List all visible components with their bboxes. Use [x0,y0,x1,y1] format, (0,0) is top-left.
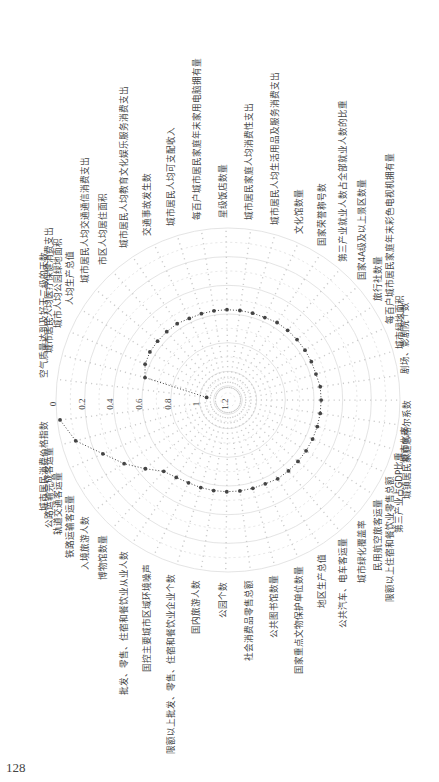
data-point [162,469,166,473]
radial-tick: 0.8 [163,398,173,410]
data-point [275,321,279,325]
data-point [156,339,160,343]
data-point [251,311,255,315]
radial-tick: 0.2 [77,398,87,409]
data-point [74,439,78,443]
data-point [174,476,178,480]
category-label: 国控主要城市区域环境噪声 [141,564,152,672]
data-point [187,317,191,321]
page-number: 128 [6,760,26,776]
category-label: 限额以上住宿和餐饮业零售总额 [384,476,395,602]
category-label: 人均生产总值 [64,251,75,305]
data-point [143,362,147,366]
data-point [238,489,242,493]
data-point [263,482,267,486]
category-label: 博物馆数量 [97,535,108,580]
radial-tick: 1 [191,402,201,407]
category-label: 城市居民人均教育文化娱乐服务消费支出 [118,86,129,248]
category-label: 国内旅游人数 [190,580,201,634]
data-point [199,312,203,316]
category-label: 文化馆数量 [293,189,304,234]
data-point [295,338,299,342]
category-label: 地区生产总值 [316,554,327,608]
data-point [212,309,216,313]
category-label: 城市居民人均可支配收入 [165,127,176,226]
category-label: 第三产业就业人数占全部就业人数的比重 [337,100,348,262]
category-label: 市区人均居住面积 [97,193,108,265]
category-label: 城市居民人均交通通信消费支出 [79,157,90,283]
category-label: 每百户城市居民家庭年末家用电脑拥有量 [191,58,202,220]
category-label: 公共汽车、电车客运量 [337,538,348,628]
data-point [287,469,291,473]
radial-tick: 0 [48,401,58,406]
data-point [143,376,147,380]
radial-tick: 1.2 [220,398,230,409]
category-label: 公园个数 [217,582,228,618]
category-label: 入境旅游人数 [79,516,90,570]
category-label: 国家重点文物保护单位数量 [293,566,304,674]
data-point [165,330,169,334]
category-label: 城市人均公园绿地面积 [52,238,63,328]
category-label: 城市居民人均生活用品及服务消费支出 [269,72,280,225]
data-point [319,398,323,402]
data-point [212,489,216,493]
data-point [101,452,105,456]
data-point [122,462,126,466]
category-label: 城市绿化覆盖率 [356,520,367,583]
radial-tick: 0.6 [134,398,144,410]
category-label: 城市居民家庭人均消费性支出 [243,103,254,220]
radial-tick: 0.4 [105,398,115,410]
data-point [286,328,290,332]
data-point [314,372,318,376]
data-point [225,490,229,494]
radar-chart: 00.20.40.60.811.2 空气质量达到及好于二级的天数城市居民人均医疗… [0,0,439,782]
category-label: 星级饭店数量 [217,164,228,218]
category-label: 剧场、影剧院个数 [399,302,410,374]
category-label: 铁路运输客运量 [64,495,75,558]
data-point [318,412,322,416]
radial-tick-labels: 00.20.40.60.811.2 [48,398,230,410]
data-point [318,385,322,389]
data-point [296,460,300,464]
data-point [205,396,209,400]
data-point [276,477,280,481]
data-point [263,316,267,320]
category-label: 旅行社数量 [372,256,383,301]
data-point [199,486,203,490]
data-point [187,481,191,485]
data-point [315,425,319,429]
data-point [143,467,147,471]
data-point [238,309,242,313]
data-point [303,348,307,352]
category-label: 公共图书馆数量 [268,575,279,638]
category-label: 国家荣誉称号数 [316,183,327,246]
data-point [311,437,315,441]
data-point [304,449,308,453]
category-label: 城市居民消费价格指数 [38,421,49,511]
data-point [309,360,313,364]
data-point [251,486,255,490]
category-label: 批发、零售、住宿和餐饮业从业人数 [118,551,129,695]
data-point [175,322,179,326]
category-label: 交通事故发生数 [141,173,152,236]
category-label: 国家4A级及以上景区数量 [356,179,367,280]
category-label: 限额以上批发、零售、住宿和餐饮业企业个数 [165,574,176,754]
category-label: 社会消费品零售总额 [243,580,254,661]
category-label: 民用航空旅客运量 [372,499,383,571]
data-point [58,418,62,422]
data-point [225,308,229,312]
data-point [148,350,152,354]
